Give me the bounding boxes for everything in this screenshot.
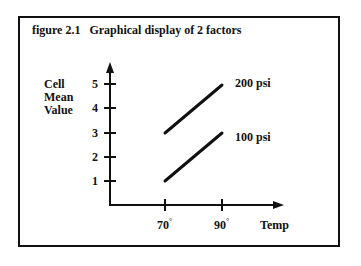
- y-tick-label: 5: [92, 77, 98, 92]
- x-axis-arrow-icon: [273, 201, 284, 209]
- x-axis-label: Temp: [260, 218, 289, 233]
- y-axis-arrow-icon: [106, 62, 114, 73]
- y-tick-label: 3: [92, 126, 98, 141]
- degree-symbol: °: [169, 217, 172, 226]
- y-tick-label: 4: [92, 101, 98, 116]
- y-tick-label: 2: [92, 150, 98, 165]
- x-tick-label: 90°: [214, 217, 229, 233]
- chart-plot: [0, 0, 361, 266]
- degree-symbol: °: [226, 217, 229, 226]
- series-200psi-line: [165, 85, 222, 133]
- x-tick-label: 70°: [157, 217, 172, 233]
- series-lines: [165, 85, 222, 181]
- series-label-200psi: 200 psi: [235, 76, 271, 91]
- y-tick-label: 1: [92, 174, 98, 189]
- series-label-100psi: 100 psi: [235, 130, 271, 145]
- series-100psi-line: [165, 133, 222, 181]
